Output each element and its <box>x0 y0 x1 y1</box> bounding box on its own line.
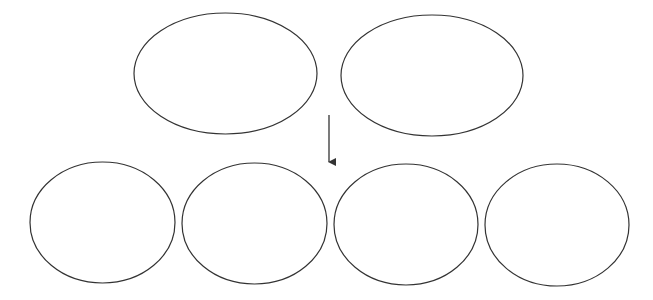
bottom-ellipse-1 <box>30 162 175 283</box>
top-ellipse-1 <box>134 13 317 134</box>
diagram-canvas <box>0 0 653 300</box>
bottom-ellipse-4 <box>485 164 629 286</box>
top-ellipse-2 <box>341 15 523 136</box>
bottom-ellipse-2 <box>182 163 327 284</box>
bottom-ellipse-3 <box>334 164 478 285</box>
